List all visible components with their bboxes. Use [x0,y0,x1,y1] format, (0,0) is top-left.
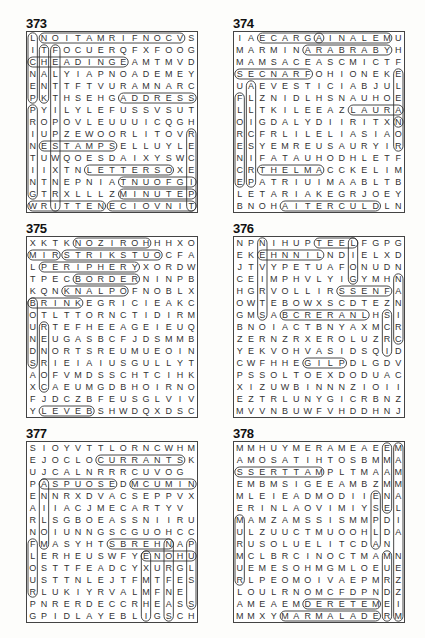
grid-cell[interactable]: T [279,466,290,478]
grid-cell[interactable]: N [336,381,347,393]
grid-cell[interactable]: T [129,249,140,261]
grid-cell[interactable]: V [302,345,313,357]
grid-cell[interactable]: M [313,610,324,622]
grid-cell[interactable]: G [370,237,381,249]
grid-cell[interactable]: W [279,381,290,393]
grid-cell[interactable]: O [152,261,163,273]
grid-cell[interactable]: O [61,116,72,128]
grid-cell[interactable]: I [186,176,197,188]
grid-cell[interactable]: Z [393,393,404,405]
grid-cell[interactable]: U [268,442,279,454]
grid-cell[interactable]: D [359,405,370,417]
grid-cell[interactable]: C [234,164,245,176]
grid-cell[interactable]: E [359,285,370,297]
grid-cell[interactable]: H [257,442,268,454]
grid-cell[interactable]: M [370,454,381,466]
grid-cell[interactable]: L [152,393,163,405]
grid-cell[interactable]: Z [106,188,117,200]
grid-cell[interactable]: M [336,562,347,574]
grid-cell[interactable]: L [359,200,370,212]
grid-cell[interactable]: V [152,104,163,116]
grid-cell[interactable]: E [245,273,256,285]
grid-cell[interactable]: A [347,128,358,140]
grid-cell[interactable]: N [27,526,38,538]
grid-cell[interactable]: I [359,56,370,68]
grid-cell[interactable]: I [291,176,302,188]
grid-cell[interactable]: Z [61,128,72,140]
grid-cell[interactable]: B [359,478,370,490]
grid-cell[interactable]: G [152,610,163,622]
grid-cell[interactable]: Z [370,333,381,345]
grid-cell[interactable]: R [61,261,72,273]
grid-cell[interactable]: A [381,128,392,140]
grid-cell[interactable]: H [325,68,336,80]
grid-cell[interactable]: R [347,116,358,128]
grid-cell[interactable]: N [393,261,404,273]
grid-cell[interactable]: R [174,80,185,92]
grid-cell[interactable]: U [234,80,245,92]
grid-cell[interactable]: N [393,273,404,285]
grid-cell[interactable]: N [393,200,404,212]
grid-cell[interactable]: A [347,321,358,333]
grid-cell[interactable]: E [50,273,61,285]
grid-cell[interactable]: R [268,128,279,140]
grid-cell[interactable]: V [325,574,336,586]
grid-cell[interactable]: Y [129,562,140,574]
grid-cell[interactable]: C [381,321,392,333]
grid-cell[interactable]: N [140,273,151,285]
grid-cell[interactable]: M [291,442,302,454]
grid-cell[interactable]: R [163,381,174,393]
grid-cell[interactable]: T [152,56,163,68]
grid-cell[interactable]: R [291,140,302,152]
grid-cell[interactable]: E [95,574,106,586]
grid-cell[interactable]: M [393,164,404,176]
grid-cell[interactable]: N [50,176,61,188]
grid-cell[interactable]: M [257,562,268,574]
grid-cell[interactable]: I [336,393,347,405]
grid-cell[interactable]: I [325,514,336,526]
grid-cell[interactable]: C [291,56,302,68]
grid-cell[interactable]: M [95,502,106,514]
grid-cell[interactable]: V [302,273,313,285]
grid-cell[interactable]: J [84,502,95,514]
grid-cell[interactable]: T [61,574,72,586]
grid-cell[interactable]: G [174,466,185,478]
grid-cell[interactable]: R [106,466,117,478]
grid-cell[interactable]: A [279,68,290,80]
grid-cell[interactable]: E [106,502,117,514]
grid-cell[interactable]: Z [393,586,404,598]
grid-cell[interactable]: H [347,152,358,164]
grid-cell[interactable]: Y [152,152,163,164]
grid-cell[interactable]: S [381,309,392,321]
grid-cell[interactable]: G [27,610,38,622]
grid-cell[interactable]: U [302,152,313,164]
grid-cell[interactable]: C [61,273,72,285]
grid-cell[interactable]: O [38,369,49,381]
grid-cell[interactable]: L [72,188,83,200]
grid-cell[interactable]: F [163,176,174,188]
grid-cell[interactable]: S [325,297,336,309]
grid-cell[interactable]: R [302,610,313,622]
grid-cell[interactable]: V [174,502,185,514]
grid-cell[interactable]: L [27,550,38,562]
grid-cell[interactable]: T [313,237,324,249]
grid-cell[interactable]: I [291,128,302,140]
grid-cell[interactable]: E [95,44,106,56]
grid-cell[interactable]: L [234,188,245,200]
grid-cell[interactable]: B [279,405,290,417]
grid-cell[interactable]: N [245,321,256,333]
grid-cell[interactable]: L [279,369,290,381]
grid-cell[interactable]: L [95,285,106,297]
grid-cell[interactable]: E [186,140,197,152]
grid-cell[interactable]: Z [393,574,404,586]
grid-cell[interactable]: T [302,261,313,273]
grid-cell[interactable]: H [370,309,381,321]
grid-cell[interactable]: I [38,249,49,261]
grid-cell[interactable]: O [313,68,324,80]
grid-cell[interactable]: M [291,574,302,586]
grid-cell[interactable]: R [393,321,404,333]
grid-cell[interactable]: L [291,116,302,128]
grid-cell[interactable]: E [245,562,256,574]
grid-cell[interactable]: R [118,454,129,466]
grid-cell[interactable]: N [84,466,95,478]
